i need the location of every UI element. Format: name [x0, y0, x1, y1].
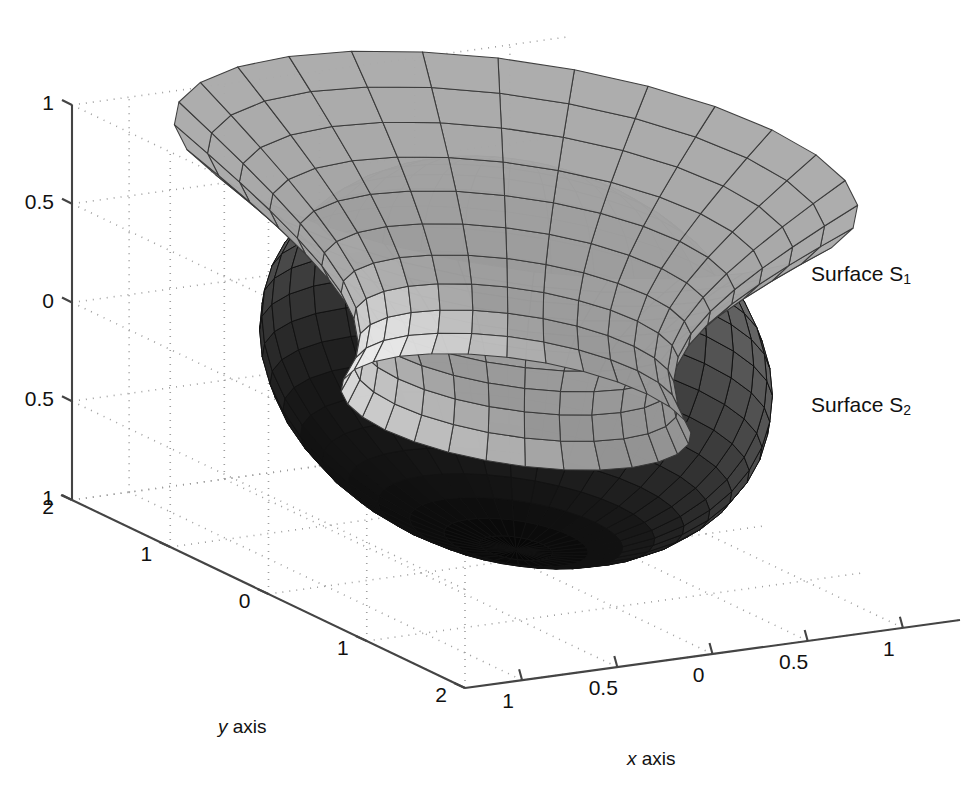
x-tick-label-2: 0 [693, 664, 705, 685]
z-tick-label-3: 0.5 [25, 388, 54, 409]
plot-stage: 10.500.512101210.500.51 y axis x axis Su… [0, 0, 976, 797]
x-tick-label-3: 0.5 [779, 651, 808, 672]
y-axis-title-symbol: y [218, 716, 228, 737]
x-axis-title: x axis [627, 748, 676, 770]
x-tick-label-4: 1 [883, 638, 895, 659]
y-axis-title-rest: axis [228, 716, 267, 737]
y-tick-label-4: 2 [435, 684, 447, 705]
y-tick-label-1: 1 [141, 543, 153, 564]
surface-s1-label-text: Surface S [811, 262, 903, 285]
y-tick-label-3: 1 [337, 637, 349, 658]
surface-s1-label: Surface S1 [811, 262, 911, 287]
y-tick-label-2: 0 [239, 590, 251, 611]
surface-s2-label: Surface S2 [811, 393, 911, 418]
x-tick-label-0: 1 [502, 690, 514, 711]
surface-s2-label-text: Surface S [811, 393, 903, 416]
z-tick-label-1: 0.5 [25, 191, 54, 212]
x-axis-title-symbol: x [627, 748, 637, 769]
surface-s2-label-sub: 2 [903, 402, 911, 418]
figure-canvas: 10.500.512101210.500.51 y axis x axis Su… [0, 0, 976, 797]
surface-s1-label-sub: 1 [903, 271, 911, 287]
z-tick-label-2: 0 [42, 290, 54, 311]
x-axis-title-rest: axis [637, 748, 676, 769]
y-tick-label-0: 2 [42, 496, 54, 517]
x-tick-label-1: 0.5 [589, 677, 618, 698]
z-tick-label-0: 1 [42, 92, 54, 113]
y-axis-title: y axis [218, 716, 267, 738]
